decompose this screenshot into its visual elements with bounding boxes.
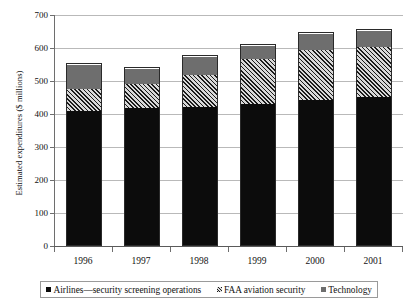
y-tick-label: 600	[35, 44, 49, 53]
bar-segment[interactable]	[356, 97, 392, 246]
bar-1998[interactable]	[182, 57, 218, 246]
y-tick-label: 0	[44, 242, 49, 251]
x-tick-mark	[344, 247, 345, 252]
gridline	[55, 81, 403, 82]
bar-segment[interactable]	[66, 65, 102, 89]
legend-item-2[interactable]: Technology	[321, 285, 372, 295]
bar-segment[interactable]	[66, 111, 102, 246]
bar-1997[interactable]	[124, 69, 160, 246]
x-tick-mark	[54, 247, 55, 252]
y-tick-label: 100	[35, 209, 49, 218]
bar-segment[interactable]	[124, 108, 160, 246]
y-tick-label: 700	[35, 11, 49, 20]
bar-segment[interactable]	[298, 50, 334, 100]
bar-segment[interactable]	[240, 59, 276, 104]
legend-swatch-icon	[321, 287, 326, 292]
bar-segment[interactable]	[182, 107, 218, 246]
gridline	[55, 180, 403, 181]
x-tick-label-2001: 2001	[350, 256, 396, 266]
bar-segment[interactable]	[240, 46, 276, 59]
x-tick-mark	[228, 247, 229, 252]
gridline	[55, 147, 403, 148]
x-tick-label-1999: 1999	[234, 256, 280, 266]
legend-label: Airlines—security screening operations	[54, 285, 202, 295]
x-tick-mark	[170, 247, 171, 252]
plot-area: 0100200300400500600700	[54, 15, 403, 246]
y-axis-title: Estimated expenditures ($ millions)	[14, 40, 24, 226]
legend-label: Technology	[328, 285, 372, 295]
bar-segment[interactable]	[182, 75, 218, 107]
bar-segment[interactable]	[240, 104, 276, 246]
y-tick-label: 200	[35, 176, 49, 185]
bar-segment[interactable]	[124, 69, 160, 84]
x-tick-mark	[286, 247, 287, 252]
x-tick-label-1996: 1996	[60, 256, 106, 266]
x-tick-mark	[402, 247, 403, 252]
y-tick-mark	[50, 114, 55, 115]
y-tick-label: 400	[35, 110, 49, 119]
bar-2000[interactable]	[298, 34, 334, 246]
bar-segment[interactable]	[182, 57, 218, 75]
y-tick-label: 500	[35, 77, 49, 86]
bar-2001[interactable]	[356, 31, 392, 246]
y-tick-mark	[50, 81, 55, 82]
gridline	[55, 48, 403, 49]
legend-swatch-icon	[217, 287, 222, 292]
y-tick-mark	[50, 147, 55, 148]
bar-1996[interactable]	[66, 65, 102, 246]
bar-segment[interactable]	[66, 89, 102, 111]
x-tick-label-1997: 1997	[118, 256, 164, 266]
x-tick-label-2000: 2000	[292, 256, 338, 266]
gridline	[55, 114, 403, 115]
legend-label: FAA aviation security	[224, 285, 305, 295]
y-tick-label: 300	[35, 143, 49, 152]
bar-segment[interactable]	[298, 100, 334, 246]
bar-1999[interactable]	[240, 46, 276, 246]
y-tick-mark	[50, 180, 55, 181]
y-tick-mark	[50, 213, 55, 214]
x-tick-label-1998: 1998	[176, 256, 222, 266]
gridline	[55, 15, 403, 16]
legend-item-0[interactable]: Airlines—security screening operations	[46, 285, 201, 295]
bar-segment[interactable]	[356, 31, 392, 48]
bar-segment[interactable]	[356, 47, 392, 97]
bar-segment[interactable]	[298, 34, 334, 50]
legend-swatch-icon	[46, 287, 51, 292]
y-tick-mark	[50, 48, 55, 49]
gridline	[55, 213, 403, 214]
y-tick-mark	[50, 15, 55, 16]
x-tick-mark	[112, 247, 113, 252]
x-axis: 199619971998199920002001	[54, 246, 402, 247]
legend-item-1[interactable]: FAA aviation security	[217, 285, 306, 295]
stacked-bar-chart: Estimated expenditures ($ millions) 0100…	[0, 0, 415, 307]
bar-segment[interactable]	[124, 84, 160, 108]
chart-legend: Airlines—security screening operationsFA…	[40, 281, 378, 298]
